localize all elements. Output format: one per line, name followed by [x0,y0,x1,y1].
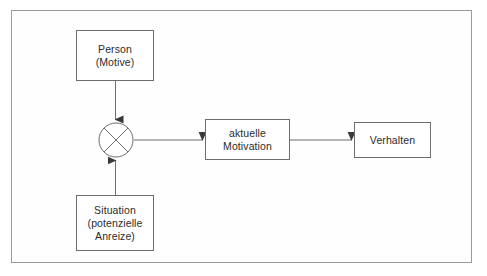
node-verhalten-line-1: Verhalten [370,134,415,147]
node-verhalten: Verhalten [354,122,431,158]
node-multiplication-operator [98,122,134,158]
node-motivation-line-1: aktuelle [229,127,266,140]
node-person-line-2: (Motive) [96,56,135,69]
node-situation: Situation (potenzielle Anreize) [76,195,154,251]
multiplication-circle-icon [98,122,134,158]
node-motivation-line-2: Motivation [223,140,272,153]
node-situation-line-2: (potenzielle [88,217,143,230]
node-person: Person (Motive) [76,30,154,81]
diagram-canvas: Person (Motive) Situation (potenzielle A… [0,0,487,276]
node-situation-line-1: Situation [94,204,136,217]
node-person-line-1: Person [98,43,132,56]
node-aktuelle-motivation: aktuelle Motivation [205,119,290,160]
node-situation-line-3: Anreize) [95,230,135,243]
